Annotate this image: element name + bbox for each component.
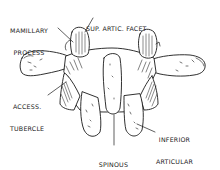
label-line: PROCESS	[10, 49, 48, 56]
right-inferior-articular-process	[124, 94, 143, 136]
spinous-process-shape	[103, 54, 121, 115]
label-line: ACCESS.	[10, 103, 44, 110]
label-line: INFERIOR	[156, 136, 193, 143]
label-inferior-articular-process: INFERIOR ARTICULAR PROCESS	[156, 121, 193, 170]
label-line: SUP. ARTIC. FACET	[86, 25, 147, 32]
label-spinous-process: SPINOUS PROCESS	[98, 146, 129, 170]
left-inferior-articular-process	[81, 92, 101, 136]
label-line: MAMILLARY	[10, 27, 48, 34]
label-access-tubercle: ACCESS. TUBERCLE	[10, 88, 44, 147]
label-line: SPINOUS	[98, 161, 129, 168]
vertebra-diagram: MAMILLARY PROCESS SUP. ARTIC. FACET ACCE…	[0, 0, 220, 170]
label-line: TUBERCLE	[10, 125, 44, 132]
right-transverse-process	[148, 55, 205, 76]
label-line: ARTICULAR	[156, 158, 193, 165]
label-sup-artic-facet: SUP. ARTIC. FACET	[86, 10, 147, 47]
label-mamillary-process: MAMILLARY PROCESS	[10, 12, 48, 71]
